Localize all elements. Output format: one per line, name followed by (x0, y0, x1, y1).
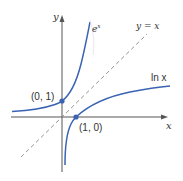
point-0-1 (59, 98, 64, 103)
x-axis-label: x (166, 121, 172, 131)
y-axis-label: y (53, 12, 59, 22)
point-0-1-label: (0, 1) (31, 92, 54, 102)
identity-label: y = x (136, 22, 159, 31)
x-axis-arrow-icon (161, 115, 168, 120)
point-1-0 (73, 114, 78, 119)
y-axis-arrow-icon (60, 15, 65, 22)
exp-label: ex (92, 23, 101, 34)
log-label: ln x (151, 73, 167, 83)
exp-label-sup: x (97, 22, 100, 29)
point-1-0-label: (1, 0) (79, 123, 102, 133)
chart-canvas: y x ex y = x ln x (0, 1) (1, 0) (0, 0, 183, 181)
